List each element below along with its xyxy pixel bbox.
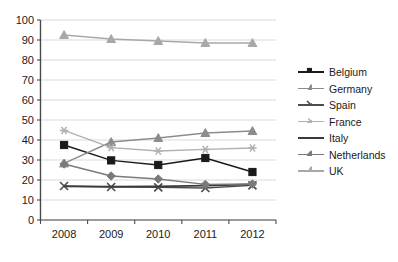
- point-netherlands-2012: [248, 180, 256, 188]
- legend-marker-none-icon: [298, 131, 324, 145]
- point-france-2008: [60, 127, 68, 134]
- y-tick-label-40: 40: [0, 135, 34, 145]
- series-layer: [60, 31, 257, 192]
- gridlines: [41, 20, 277, 220]
- legend-item-spain[interactable]: Spain: [298, 97, 398, 114]
- legend-item-germany[interactable]: Germany: [298, 81, 398, 98]
- point-belgium-2008: [60, 141, 67, 148]
- chart-legend: BelgiumGermanySpainFranceItalyNetherland…: [298, 64, 398, 180]
- point-netherlands-2009: [107, 172, 115, 180]
- x-tick-label-2012: 2012: [229, 228, 275, 240]
- point-belgium-2011: [202, 154, 209, 161]
- legend-glyph-square: [307, 69, 312, 74]
- legend-label: Germany: [329, 83, 372, 95]
- y-tick-label-80: 80: [0, 55, 34, 65]
- legend-item-netherlands[interactable]: Netherlands: [298, 147, 398, 164]
- legend-glyph-triangle: [307, 84, 312, 89]
- point-netherlands-2010: [154, 175, 162, 183]
- legend-label: Netherlands: [329, 149, 386, 161]
- y-tick-label-50: 50: [0, 115, 34, 125]
- series-germany: [60, 127, 257, 167]
- legend-label: Spain: [329, 99, 356, 111]
- legend-marker-triangle-icon: [298, 164, 324, 178]
- point-france-2012: [248, 144, 256, 151]
- legend-glyph-diamond: [307, 151, 312, 156]
- point-belgium-2009: [108, 157, 115, 164]
- legend-marker-triangle-icon: [298, 82, 324, 96]
- legend-marker-diamond-icon: [298, 148, 324, 162]
- x-tick-label-2010: 2010: [135, 228, 181, 240]
- x-tick-label-2008: 2008: [41, 228, 87, 240]
- legend-glyph-x: [307, 101, 312, 106]
- point-france-2011: [201, 146, 209, 153]
- x-tick-marks: [41, 220, 277, 224]
- legend-glyph: [304, 65, 312, 73]
- y-tick-label-0: 0: [0, 215, 34, 225]
- point-belgium-2010: [155, 161, 162, 168]
- x-tick-label-2009: 2009: [88, 228, 134, 240]
- legend-label: Italy: [329, 132, 348, 144]
- legend-marker-asterisk-icon: [298, 115, 324, 129]
- x-tick-label-2011: 2011: [182, 228, 228, 240]
- legend-line: [298, 137, 324, 139]
- y-tick-label-60: 60: [0, 95, 34, 105]
- legend-item-belgium[interactable]: Belgium: [298, 64, 398, 81]
- series-uk: [60, 31, 257, 47]
- legend-glyph: [304, 148, 312, 156]
- legend-glyph: [304, 164, 312, 172]
- point-belgium-2012: [249, 168, 256, 175]
- legend-marker-x-icon: [298, 98, 324, 112]
- point-france-2010: [154, 147, 162, 154]
- legend-glyph: [304, 82, 312, 90]
- legend-item-france[interactable]: France: [298, 114, 398, 131]
- legend-label: Belgium: [329, 66, 367, 78]
- legend-label: UK: [329, 165, 344, 177]
- legend-item-uk[interactable]: UK: [298, 163, 398, 180]
- y-tick-label-70: 70: [0, 75, 34, 85]
- legend-glyph-triangle: [307, 167, 312, 172]
- y-tick-label-30: 30: [0, 155, 34, 165]
- y-tick-label-10: 10: [0, 195, 34, 205]
- legend-marker-square-icon: [298, 65, 324, 79]
- y-tick-label-90: 90: [0, 35, 34, 45]
- y-tick-label-100: 100: [0, 15, 34, 25]
- legend-glyph: [304, 115, 312, 123]
- legend-glyph-asterisk: [307, 118, 312, 123]
- legend-glyph: [304, 98, 312, 106]
- y-tick-label-20: 20: [0, 175, 34, 185]
- legend-label: France: [329, 116, 362, 128]
- chart-root: 1009080706050403020100 20082009201020112…: [0, 0, 398, 262]
- legend-item-italy[interactable]: Italy: [298, 130, 398, 147]
